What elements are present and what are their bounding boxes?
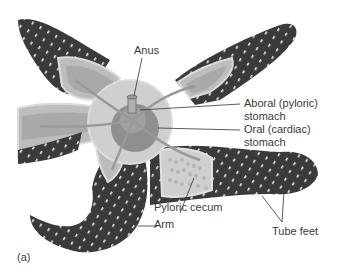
label-oral-stomach-line2: stomach: [244, 136, 286, 149]
leader-tube-feet-2: [282, 192, 284, 222]
label-tube-feet: Tube feet: [272, 225, 318, 238]
arm-upper-right: [175, 24, 296, 105]
label-aboral-stomach-line2: stomach: [244, 110, 286, 123]
label-arm: Arm: [154, 218, 174, 231]
label-oral-stomach-line1: Oral (cardiac): [244, 123, 311, 136]
label-aboral-stomach-line1: Aboral (pyloric): [244, 97, 318, 110]
label-anus: Anus: [134, 44, 159, 57]
arm-lower-right: [150, 146, 318, 205]
panel-label: (a): [17, 251, 30, 263]
label-pyloric-cecum: Pyloric cecum: [154, 201, 222, 214]
leader-tube-feet-1: [262, 196, 282, 222]
